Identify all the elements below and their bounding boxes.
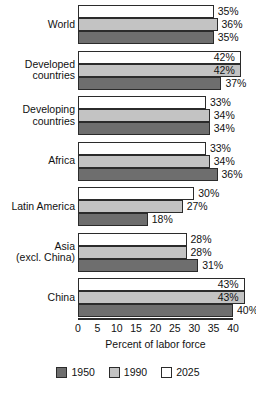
bar-value-label: 34% bbox=[214, 155, 235, 168]
x-tick-30: 30 bbox=[188, 322, 200, 334]
bar-value-label: 40% bbox=[237, 304, 256, 317]
bar-value-label: 33% bbox=[210, 142, 231, 155]
bar-group: World35%36%35% bbox=[0, 5, 256, 44]
x-axis-tick-labels: 0510152025303540 bbox=[0, 322, 256, 336]
bar-value-label: 36% bbox=[222, 168, 243, 181]
x-tick-15: 15 bbox=[130, 322, 142, 334]
chart-legend: 195019902025 bbox=[0, 366, 256, 378]
bar-group: Developed countries42%42%37% bbox=[0, 51, 256, 90]
bar-value-label: 33% bbox=[210, 96, 231, 109]
x-tick-5: 5 bbox=[94, 322, 100, 334]
bar-1950[interactable] bbox=[78, 168, 218, 181]
bar-group: China43%43%40% bbox=[0, 278, 256, 317]
bar-value-label: 43% bbox=[218, 278, 239, 291]
x-axis-title: Percent of labor force bbox=[78, 338, 233, 350]
x-tick-25: 25 bbox=[169, 322, 181, 334]
bar-group: Latin America30%27%18% bbox=[0, 187, 256, 226]
bar-group: Developing countries33%34%34% bbox=[0, 96, 256, 135]
category-label: China bbox=[1, 292, 75, 304]
x-tick-0: 0 bbox=[75, 322, 81, 334]
bar-1990[interactable] bbox=[78, 200, 183, 213]
bar-1990[interactable] bbox=[78, 155, 210, 168]
legend-item-2025[interactable]: 2025 bbox=[161, 366, 199, 378]
legend-label: 2025 bbox=[176, 366, 199, 378]
x-tick-10: 10 bbox=[111, 322, 123, 334]
category-label: Developing countries bbox=[1, 104, 75, 127]
category-label: Developed countries bbox=[1, 59, 75, 82]
bar-value-label: 34% bbox=[214, 122, 235, 135]
x-tick-20: 20 bbox=[150, 322, 162, 334]
legend-item-1990[interactable]: 1990 bbox=[109, 366, 147, 378]
legend-label: 1990 bbox=[124, 366, 147, 378]
legend-item-1950[interactable]: 1950 bbox=[56, 366, 94, 378]
category-label: Africa bbox=[1, 155, 75, 167]
grouped-bar-chart: World35%36%35%Developed countries42%42%3… bbox=[0, 0, 256, 394]
legend-swatch-2025 bbox=[161, 367, 172, 378]
legend-swatch-1950 bbox=[56, 367, 67, 378]
bar-group: Asia (excl. China)28%28%31% bbox=[0, 233, 256, 272]
category-label: World bbox=[1, 19, 75, 31]
bar-value-label: 28% bbox=[191, 246, 212, 259]
legend-swatch-1990 bbox=[109, 367, 120, 378]
bar-1990[interactable] bbox=[78, 109, 210, 122]
bar-1990[interactable] bbox=[78, 18, 218, 31]
bar-1950[interactable] bbox=[78, 77, 221, 90]
category-label: Latin America bbox=[1, 201, 75, 213]
x-tick-40: 40 bbox=[227, 322, 239, 334]
bar-value-label: 28% bbox=[191, 233, 212, 246]
bar-value-label: 42% bbox=[214, 64, 235, 77]
bar-1950[interactable] bbox=[78, 122, 210, 135]
bar-value-label: 30% bbox=[198, 187, 219, 200]
legend-label: 1950 bbox=[71, 366, 94, 378]
bar-2025[interactable] bbox=[78, 96, 206, 109]
x-tick-35: 35 bbox=[208, 322, 220, 334]
bar-value-label: 35% bbox=[218, 31, 239, 44]
bar-value-label: 31% bbox=[202, 259, 223, 272]
x-axis-line bbox=[78, 318, 233, 320]
bar-value-label: 36% bbox=[222, 18, 243, 31]
bar-value-label: 34% bbox=[214, 109, 235, 122]
category-label: Asia (excl. China) bbox=[1, 241, 75, 264]
bar-value-label: 35% bbox=[218, 5, 239, 18]
bar-value-label: 18% bbox=[152, 213, 173, 226]
bar-1950[interactable] bbox=[78, 213, 148, 226]
bar-group: Africa33%34%36% bbox=[0, 142, 256, 181]
bar-2025[interactable] bbox=[78, 142, 206, 155]
bar-value-label: 27% bbox=[187, 200, 208, 213]
bar-value-label: 43% bbox=[218, 291, 239, 304]
bar-1950[interactable] bbox=[78, 304, 233, 317]
bar-1950[interactable] bbox=[78, 31, 214, 44]
bar-value-label: 37% bbox=[225, 77, 246, 90]
bar-1990[interactable] bbox=[78, 246, 187, 259]
bar-2025[interactable] bbox=[78, 187, 194, 200]
bar-1950[interactable] bbox=[78, 259, 198, 272]
bar-value-label: 42% bbox=[214, 51, 235, 64]
bar-2025[interactable] bbox=[78, 5, 214, 18]
bar-2025[interactable] bbox=[78, 233, 187, 246]
